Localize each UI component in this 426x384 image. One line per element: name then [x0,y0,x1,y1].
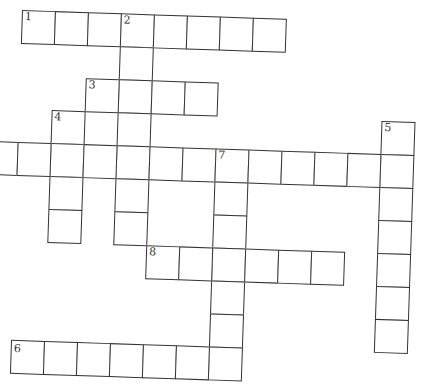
crossword-cell[interactable] [252,18,287,53]
crossword-cell[interactable]: 1 [21,10,56,45]
crossword-cell[interactable] [151,80,186,115]
crossword-cell[interactable] [175,345,210,380]
crossword-cell[interactable] [54,11,89,46]
crossword-cell[interactable] [119,46,154,81]
crossword-cell[interactable] [153,14,188,49]
crossword-cell[interactable] [379,154,414,189]
crossword-cell[interactable] [115,145,150,180]
crossword-cell[interactable] [113,211,148,246]
crossword-cell[interactable] [117,112,152,147]
crossword-cell[interactable] [244,249,279,284]
crossword-cell[interactable] [346,153,381,188]
crossword-cell[interactable] [148,146,183,181]
crossword-cell[interactable] [142,344,177,379]
crossword-cell[interactable]: 7 [214,148,249,183]
crossword-cell[interactable] [186,15,221,50]
crossword-cell[interactable] [377,220,412,255]
crossword-cell[interactable] [211,247,246,282]
crossword-cell[interactable] [181,147,216,182]
clue-number-8: 8 [149,246,156,258]
crossword-cell[interactable]: 9 [10,340,45,375]
crossword-cell[interactable] [378,187,413,222]
crossword-cell[interactable] [209,313,244,348]
crossword-cell[interactable] [376,253,411,288]
crossword-cell[interactable] [114,178,149,213]
clue-number-1: 1 [25,11,32,23]
crossword-cell[interactable]: 8 [145,245,180,280]
crossword-cell[interactable] [277,250,312,285]
crossword-cell[interactable]: 3 [85,78,120,113]
crossword-cell[interactable] [310,251,345,286]
crossword-cell[interactable] [374,319,409,354]
crossword-cell[interactable] [47,209,82,244]
crossword-cell[interactable] [280,151,315,186]
crossword-cell[interactable] [48,176,83,211]
crossword-grid: 123456789 [0,0,426,384]
crossword-cell[interactable] [49,143,84,178]
crossword-cell[interactable]: 2 [120,13,155,48]
clue-number-5: 5 [384,122,391,134]
crossword-cell[interactable] [109,343,144,378]
crossword-cell[interactable] [16,142,51,177]
crossword-cell[interactable] [43,341,78,376]
crossword-cell[interactable] [375,286,410,321]
clue-number-4: 4 [54,111,61,123]
crossword-cell[interactable] [210,280,245,315]
clue-number-3: 3 [88,79,95,91]
crossword-cell[interactable] [178,246,213,281]
crossword-cell[interactable] [219,17,254,52]
crossword-cell[interactable]: 5 [380,121,415,156]
crossword-cell[interactable] [313,152,348,187]
clue-number-9: 9 [14,341,21,353]
clue-number-7: 7 [218,150,225,162]
crossword-cell[interactable] [76,342,111,377]
crossword-cell[interactable] [87,12,122,47]
clue-number-2: 2 [124,14,131,26]
crossword-cell[interactable] [82,144,117,179]
crossword-cell[interactable] [247,150,282,185]
crossword-cell[interactable] [184,81,219,116]
crossword-cell[interactable] [208,346,243,381]
crossword-cell[interactable] [213,181,248,216]
crossword-cell[interactable]: 4 [51,110,86,145]
crossword-cell[interactable] [212,214,247,249]
crossword-cell[interactable] [118,79,153,114]
